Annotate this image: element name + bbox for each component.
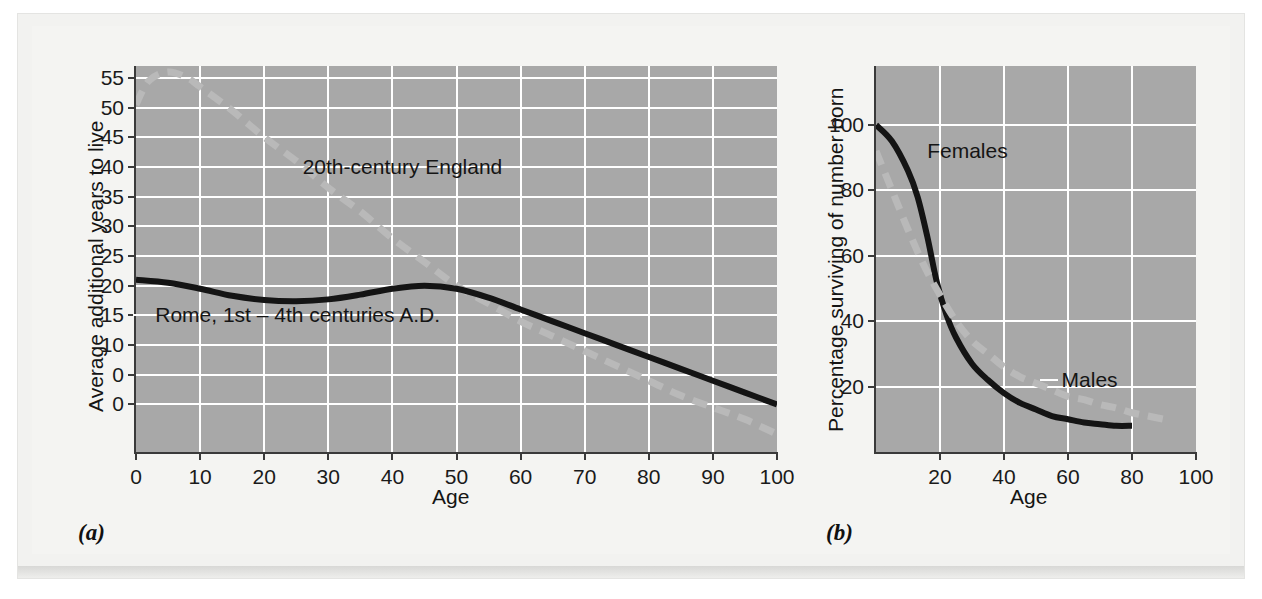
annotation-leader-line	[1040, 379, 1058, 381]
x-tick-label: 40	[974, 466, 1034, 487]
panel-tag-b: (b)	[826, 520, 853, 546]
series-annotation: Females	[927, 139, 1008, 163]
figure-root: Average additional years to live Age (a)…	[0, 0, 1262, 599]
x-axis-line	[874, 452, 1196, 454]
y-axis-line	[874, 66, 876, 452]
y-tick-label: 100	[814, 114, 864, 135]
x-tick-label: 100	[1166, 466, 1226, 487]
series-canvas-b	[0, 0, 1262, 599]
x-axis-title-b: Age	[1010, 485, 1047, 509]
y-tick-label: 40	[814, 310, 864, 331]
x-tick-label: 80	[1102, 466, 1162, 487]
panel-b: Percentage surviving of number born Age …	[0, 0, 1262, 599]
x-tick-label: 60	[1038, 466, 1098, 487]
series-line-males	[876, 151, 1164, 419]
y-tick-label: 20	[814, 376, 864, 397]
y-tick-label: 80	[814, 179, 864, 200]
x-tick-label: 20	[910, 466, 970, 487]
series-annotation: Males	[1062, 368, 1118, 392]
y-tick-label: 60	[814, 245, 864, 266]
